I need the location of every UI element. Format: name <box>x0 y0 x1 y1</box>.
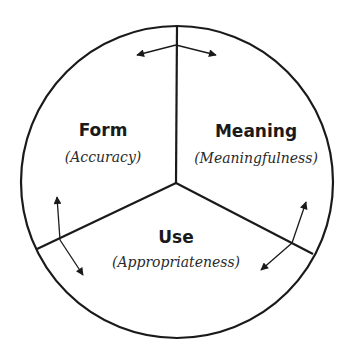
sector-form-subtitle: (Accuracy) <box>65 149 142 165</box>
sector-use-title: Use <box>158 227 193 247</box>
sector-meaning-title: Meaning <box>215 121 297 141</box>
pie-chart-diagram: Form (Accuracy) Meaning (Meaningfulness)… <box>0 0 350 358</box>
divider-top <box>176 26 177 183</box>
sector-meaning-subtitle: (Meaningfulness) <box>194 150 318 166</box>
divider-right <box>176 183 313 254</box>
sector-use-subtitle: (Appropriateness) <box>112 254 240 270</box>
arrow-meaning-use-icon <box>261 202 306 270</box>
arrow-form-use-icon <box>57 197 83 275</box>
sector-form-title: Form <box>79 120 128 140</box>
